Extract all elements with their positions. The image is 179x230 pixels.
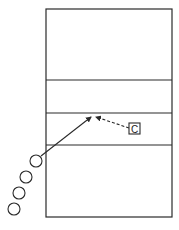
coach-toss-arrow (96, 117, 129, 128)
player-4 (8, 203, 20, 215)
player-path-arrow (41, 117, 91, 156)
player-1 (30, 155, 42, 167)
player-2 (20, 171, 32, 183)
volleyball-drill-diagram: C (0, 0, 179, 230)
player-3 (13, 187, 25, 199)
coach-label: C (131, 124, 138, 135)
